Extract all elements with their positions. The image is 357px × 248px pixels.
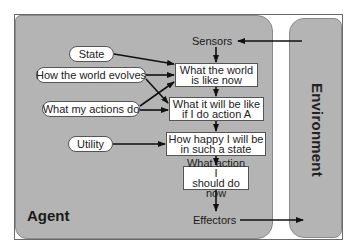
actions-to-world-arrow [140,82,174,106]
arrows-layer [0,0,357,248]
state-arrow [114,54,174,64]
